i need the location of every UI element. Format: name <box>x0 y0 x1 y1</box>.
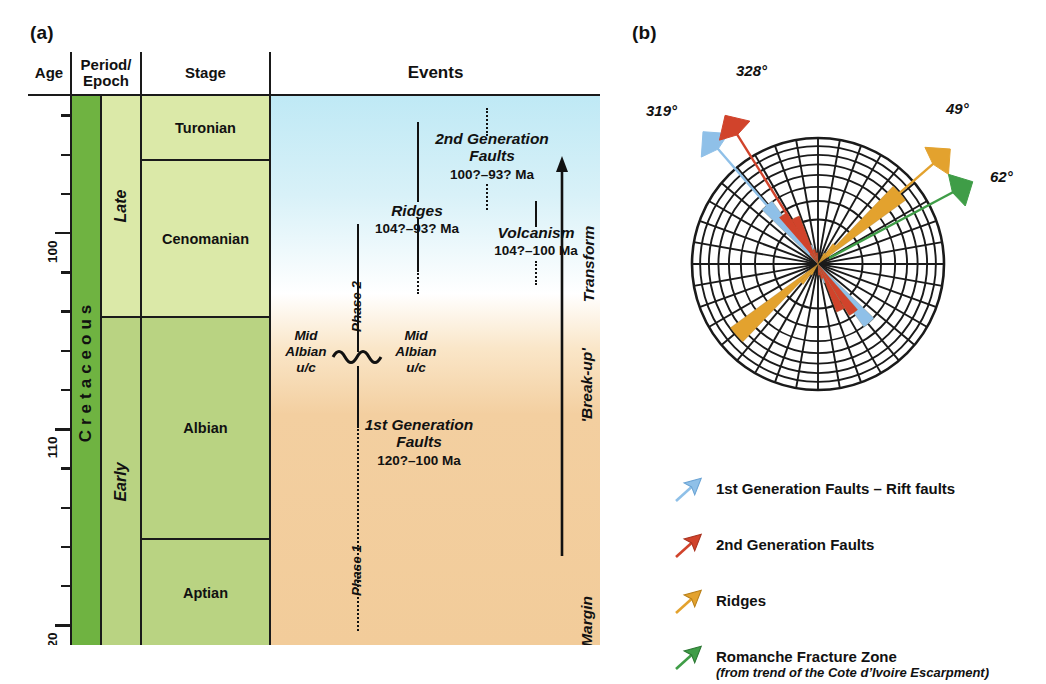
phase-1-label: Phase 1 <box>349 545 364 596</box>
stage-aptian: Aptian <box>142 540 269 645</box>
age-tick <box>55 624 70 626</box>
age-tick <box>61 507 70 509</box>
legend-arrow-icon <box>672 531 716 565</box>
header-events: Events <box>271 52 600 96</box>
panel-a-label: (a) <box>30 22 54 44</box>
volcanism-dots <box>535 261 537 285</box>
period-column: Cretaceous <box>72 96 102 645</box>
rose-diagram <box>620 32 1040 472</box>
rose-legend: 1st Generation Faults – Rift faults 2nd … <box>672 475 1042 684</box>
age-tick <box>61 154 70 156</box>
legend-arrow-icon <box>672 643 716 677</box>
age-tick <box>61 310 70 312</box>
age-tick <box>55 232 70 234</box>
age-axis-column: 100110120 <box>28 96 72 645</box>
phase-2-label: Phase 2 <box>349 281 364 332</box>
degree-label-62: 62° <box>990 168 1013 185</box>
ridges-dots <box>417 270 419 294</box>
legend-item: 2nd Generation Faults <box>672 531 1042 565</box>
header-stage: Stage <box>142 52 271 96</box>
epoch-early-label: Early <box>112 462 130 501</box>
age-tick-label: 110 <box>46 437 61 459</box>
header-age: Age <box>28 52 72 96</box>
rifted-margin-label: Rifted Margin <box>578 596 596 645</box>
stage-cenomanian: Cenomanian <box>142 161 269 318</box>
epoch-early: Early <box>102 318 140 645</box>
age-tick <box>61 271 70 273</box>
margin-arrow <box>554 156 570 556</box>
header-period-epoch: Period/ Epoch <box>72 52 142 96</box>
legend-label-sub: (from trend of the Cote d’Ivoire Escarpm… <box>716 666 989 681</box>
legend-label: 1st Generation Faults – Rift faults <box>716 475 955 497</box>
legend-item: Ridges <box>672 587 1042 621</box>
rose-diagram-panel: 319° 328° 49° 62° 1st Generation Faults … <box>620 20 1040 660</box>
header-period-line1: Period/ <box>81 56 132 73</box>
degree-label-328: 328° <box>736 62 767 79</box>
degree-label-319: 319° <box>646 102 677 119</box>
stage-albian: Albian <box>142 318 269 540</box>
first-gen-faults-label: 1st Generation Faults 120?–100 Ma <box>329 416 509 468</box>
epoch-late-label: Late <box>112 190 130 223</box>
age-tick <box>61 585 70 587</box>
events-column: Phase 2 Phase 1 Mid Albian u/c Mid Albia… <box>271 96 600 645</box>
age-tick <box>61 389 70 391</box>
legend-label-main: Romanche Fracture Zone <box>716 648 897 665</box>
legend-arrow-icon <box>672 475 716 509</box>
legend-arrow-icon <box>672 587 716 621</box>
epoch-column: Late Early <box>102 96 142 645</box>
epoch-late: Late <box>102 96 140 318</box>
unconformity-right: Mid Albian u/c <box>387 328 445 376</box>
stage-turonian: Turonian <box>142 96 269 161</box>
header-period-line2: Epoch <box>83 72 129 89</box>
unconformity-left: Mid Albian u/c <box>277 328 335 376</box>
legend-label: Romanche Fracture Zone (from trend of th… <box>716 643 989 681</box>
age-tick <box>61 114 70 116</box>
age-tick <box>61 193 70 195</box>
transform-margin-label: Transform Margin <box>580 204 600 324</box>
degree-label-49: 49° <box>946 100 969 117</box>
legend-label: 2nd Generation Faults <box>716 531 874 553</box>
unconformity-squiggle <box>331 343 387 367</box>
period-label: Cretaceous <box>76 299 96 442</box>
age-tick <box>61 467 70 469</box>
age-tick <box>61 350 70 352</box>
legend-item: 1st Generation Faults – Rift faults <box>672 475 1042 509</box>
age-tick <box>55 428 70 430</box>
legend-label: Ridges <box>716 587 766 609</box>
age-tick-label: 100 <box>46 241 61 264</box>
second-gen-faults-label: 2nd Generation Faults 100?–93? Ma <box>417 130 567 182</box>
age-tick-label: 120 <box>46 633 61 645</box>
age-tick <box>61 546 70 548</box>
breakup-label: 'Break-up' <box>578 348 596 423</box>
legend-item: Romanche Fracture Zone (from trend of th… <box>672 643 1042 681</box>
stage-column: Turonian Cenomanian Albian Aptian <box>142 96 271 645</box>
chronostratigraphic-chart: Age Period/ Epoch Stage Events 100110120… <box>28 52 600 645</box>
